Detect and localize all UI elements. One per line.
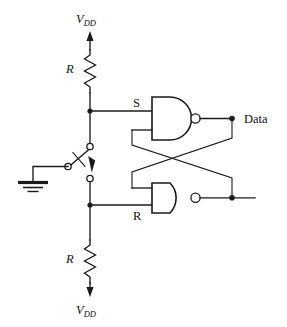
vdd-top-label: VDD (76, 12, 97, 28)
vdd-top-arrowhead (86, 31, 93, 41)
set-input-label: S (133, 96, 140, 110)
nand-gate-top (132, 97, 232, 140)
reset-junction-dot (87, 202, 92, 207)
data-output-junction-dot (229, 116, 235, 122)
resistor-top-zigzag (85, 50, 96, 93)
vdd-bottom-arrowhead (86, 287, 93, 297)
nand-gate-top-bubble (191, 114, 200, 123)
circuit-diagram: VDD R S R Data R VDD (0, 0, 287, 327)
switch-blade[interactable] (71, 150, 89, 166)
nand-gate-bottom-body (152, 183, 176, 213)
reset-input-label: R (133, 209, 142, 223)
resistor-top-label: R (65, 62, 74, 76)
nand-gate-bottom (132, 183, 255, 213)
ground-connection (18, 167, 68, 192)
qbar-output-junction-dot (229, 195, 235, 201)
data-output-label: Data (244, 112, 268, 126)
top-node-wiring (87, 93, 152, 143)
ground-wire (33, 167, 68, 183)
resistor-bottom-zigzag (85, 240, 96, 283)
spdt-switch[interactable] (65, 143, 95, 181)
bottom-node-wiring (87, 182, 152, 240)
switch-terminal-upper[interactable] (87, 143, 93, 149)
resistor-bottom-label: R (65, 252, 74, 266)
vdd-bottom-label: VDD (76, 303, 97, 319)
set-junction-dot (87, 108, 92, 113)
resistor-bottom (85, 240, 96, 283)
nand-gate-top-body (152, 97, 192, 140)
nand-gate-bottom-bubble (191, 193, 200, 202)
switch-terminal-lower[interactable] (87, 175, 93, 181)
switch-actuation-arrow (88, 156, 95, 173)
resistor-top (85, 50, 96, 93)
top-supply-branch (86, 31, 93, 50)
bottom-supply-branch (86, 283, 93, 297)
